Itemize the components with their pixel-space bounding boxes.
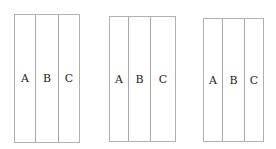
column-label: C (159, 74, 167, 85)
column-a: A (15, 15, 36, 142)
panel-3: A B C (203, 18, 264, 142)
column-label: A (21, 73, 29, 84)
column-label: B (43, 73, 51, 84)
column-c: C (151, 17, 175, 141)
column-c: C (245, 19, 263, 141)
column-b: B (36, 15, 59, 142)
column-label: A (209, 75, 217, 86)
column-b: B (129, 17, 151, 141)
column-b: B (223, 19, 245, 141)
column-a: A (204, 19, 223, 141)
column-label: C (250, 75, 258, 86)
column-a: A (110, 17, 129, 141)
column-c: C (59, 15, 79, 142)
column-label: C (65, 73, 73, 84)
panel-1: A B C (14, 14, 80, 143)
column-label: B (229, 75, 237, 86)
column-label: A (115, 74, 123, 85)
column-label: B (135, 74, 143, 85)
panel-2: A B C (109, 16, 176, 142)
